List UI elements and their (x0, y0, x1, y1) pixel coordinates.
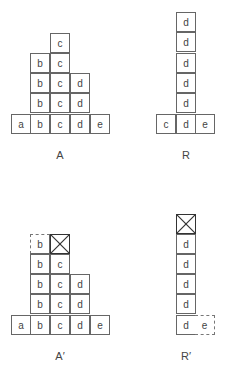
cell: c (50, 93, 70, 113)
cell: d (176, 12, 196, 32)
cell: d (176, 114, 196, 134)
cell: b (30, 294, 50, 314)
cell: d (176, 274, 196, 294)
cell: d (176, 234, 196, 254)
cell: c (50, 274, 70, 294)
diagram-label-a-prime: A′ (40, 350, 80, 362)
dashed-cell: b (30, 234, 50, 254)
cross-icon (177, 215, 195, 233)
cell: a (11, 315, 31, 335)
cell: e (90, 315, 110, 335)
cell: b (30, 93, 50, 113)
cell: b (30, 254, 50, 274)
diagram-label-r-prime: R′ (166, 350, 206, 362)
cell: d (176, 93, 196, 113)
cell: d (176, 315, 196, 335)
crossed-cell (50, 234, 70, 254)
diagram-label-a: A (40, 149, 80, 161)
cell: c (50, 33, 70, 53)
cell: d (70, 73, 90, 93)
cell: d (176, 254, 196, 274)
cell: d (176, 53, 196, 73)
cross-icon (51, 235, 69, 253)
cell: c (50, 114, 70, 134)
cell: d (176, 294, 196, 314)
cell: b (30, 114, 50, 134)
cell: b (30, 53, 50, 73)
diagram-label-r: R (166, 149, 206, 161)
cell: d (176, 32, 196, 52)
cell: d (70, 294, 90, 314)
cell: b (30, 73, 50, 93)
cell: c (50, 73, 70, 93)
dashed-cell: e (195, 315, 215, 335)
cell: d (70, 274, 90, 294)
cell: c (156, 114, 176, 134)
cell: a (11, 114, 31, 134)
cell: e (195, 114, 215, 134)
cell: e (90, 114, 110, 134)
cell: c (50, 315, 70, 335)
cell: c (50, 294, 70, 314)
cell: b (30, 274, 50, 294)
cell: b (30, 315, 50, 335)
crossed-cell (176, 214, 196, 234)
cell: d (70, 93, 90, 113)
cell: c (50, 53, 70, 73)
cell: d (176, 73, 196, 93)
cell: c (50, 254, 70, 274)
cell: d (70, 315, 90, 335)
cell: d (70, 114, 90, 134)
